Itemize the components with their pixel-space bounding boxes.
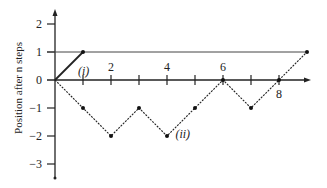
axes: 210−1−2−32468 xyxy=(29,9,311,180)
y-tick-label: 1 xyxy=(36,45,42,59)
random-walk-diagram: 210−1−2−32468 (i)(ii)Position after n st… xyxy=(0,0,327,188)
x-tick-label: 6 xyxy=(220,60,226,74)
y-tick-label: −1 xyxy=(29,101,42,115)
path-point xyxy=(81,50,85,54)
path-point xyxy=(109,134,113,138)
path-point xyxy=(249,106,253,110)
path-point xyxy=(165,134,169,138)
y-tick-label: −2 xyxy=(29,129,42,143)
path-point xyxy=(305,50,309,54)
path-point xyxy=(221,78,225,82)
y-axis-arrow-icon xyxy=(53,9,58,16)
x-tick-label: 8 xyxy=(276,87,282,101)
y-axis-end-dot xyxy=(54,177,57,180)
y-tick-label: 0 xyxy=(36,73,42,87)
y-axis-label: Position after n steps xyxy=(12,42,24,134)
path-point xyxy=(193,106,197,110)
x-tick-label: 4 xyxy=(164,60,170,74)
path-point xyxy=(81,106,85,110)
path-point xyxy=(137,106,141,110)
x-axis-arrow-icon xyxy=(304,78,311,83)
path-point xyxy=(277,78,281,82)
path-label-ii: (ii) xyxy=(175,127,190,141)
path-label-i: (i) xyxy=(78,64,89,78)
x-tick-label: 2 xyxy=(108,60,114,74)
y-tick-label: −3 xyxy=(29,157,42,171)
path-ii xyxy=(55,52,307,136)
y-tick-label: 2 xyxy=(36,17,42,31)
